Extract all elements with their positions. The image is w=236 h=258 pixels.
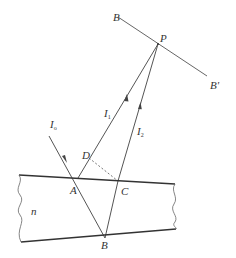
incident-ray (49, 136, 105, 238)
film-bottom-surface (21, 229, 176, 242)
label-point-b: B (101, 240, 108, 251)
film-interference-diagram: B P B' I1 I2 Io D A C B n (0, 0, 236, 258)
refracted-ray-bc (105, 181, 118, 238)
film-top-surface (19, 175, 175, 184)
label-ray-i2: I2 (137, 126, 144, 138)
point-p-marker (157, 43, 159, 45)
label-medium-n: n (31, 206, 37, 217)
label-screen-b-prime: B' (210, 80, 219, 91)
label-ray-i1: I1 (104, 108, 111, 120)
label-point-p: P (160, 33, 167, 44)
label-point-a: A (70, 185, 77, 196)
label-point-d: D (82, 150, 90, 161)
label-point-c: C (121, 186, 128, 197)
dashed-dc (89, 158, 118, 181)
film-right-break (173, 184, 177, 229)
ray-i2 (118, 44, 158, 181)
diagram-lines (0, 0, 236, 258)
film-left-break (18, 175, 22, 242)
ray-i1 (78, 44, 158, 178)
label-screen-b: B (113, 12, 120, 23)
screen-line (118, 17, 207, 76)
label-ray-i0: Io (50, 119, 57, 131)
